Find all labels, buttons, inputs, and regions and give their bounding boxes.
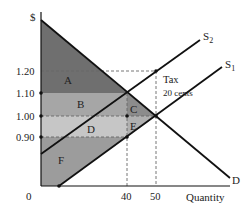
price-tick-0-90: 0.90 — [16, 132, 34, 143]
price-tick-1-20: 1.20 — [16, 66, 34, 77]
region-d-label: D — [87, 123, 95, 135]
s2-label: S2 — [203, 30, 213, 45]
s1-label-sub: 1 — [231, 64, 235, 73]
tax-annotation-line1: Tax — [163, 74, 179, 85]
origin-label: 0 — [26, 190, 32, 202]
region-d — [41, 116, 127, 137]
region-f-label: F — [58, 154, 64, 166]
region-c-label: C — [130, 103, 137, 115]
x-axis-label: Quantity — [186, 191, 225, 203]
region-a-label: A — [64, 74, 72, 86]
s2-label-sub: 2 — [209, 36, 213, 45]
price-tick-1-10: 1.10 — [16, 88, 34, 99]
s1-label: S1 — [225, 58, 235, 73]
region-e-label: E — [130, 120, 137, 132]
tax-incidence-diagram: $ Quantity 0 1.20 1.10 1.00 0.90 40 50 D… — [0, 0, 251, 217]
tax-annotation-line2: 20 cents — [163, 88, 193, 98]
quantity-tick-40: 40 — [121, 191, 132, 202]
quantity-tick-50: 50 — [150, 191, 161, 202]
y-axis-label: $ — [30, 11, 36, 23]
price-tick-1-00: 1.00 — [16, 111, 34, 122]
region-b-label: B — [77, 98, 84, 110]
demand-label: D — [232, 174, 240, 186]
